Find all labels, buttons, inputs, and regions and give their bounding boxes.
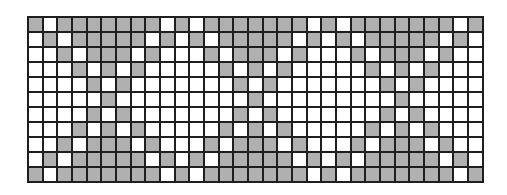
grid-cell-filled — [145, 167, 160, 182]
grid-cell-empty — [160, 47, 175, 62]
grid-cell-filled — [424, 32, 439, 47]
grid-cell-filled — [145, 17, 160, 32]
grid-cell-empty — [28, 47, 43, 62]
grid-cell-empty — [453, 62, 468, 77]
grid-cell-empty — [28, 62, 43, 77]
grid-cell-filled — [424, 122, 439, 137]
grid-cell-filled — [101, 17, 116, 32]
knitting-pattern-grid — [27, 16, 484, 183]
grid-cell-empty — [175, 122, 190, 137]
grid-cell-filled — [189, 32, 204, 47]
grid-cell-filled — [365, 32, 380, 47]
grid-cell-empty — [453, 47, 468, 62]
grid-cell-empty — [72, 77, 87, 92]
grid-cell-empty — [468, 137, 483, 152]
grid-cell-empty — [365, 47, 380, 62]
grid-cell-filled — [57, 17, 72, 32]
grid-cell-empty — [160, 107, 175, 122]
grid-cell-filled — [145, 137, 160, 152]
grid-cell-empty — [395, 107, 410, 122]
grid-cell-filled — [263, 47, 278, 62]
grid-cell-empty — [116, 122, 131, 137]
grid-cell-filled — [248, 62, 263, 77]
grid-cell-empty — [321, 137, 336, 152]
grid-cell-empty — [292, 32, 307, 47]
grid-cell-empty — [145, 92, 160, 107]
grid-cell-filled — [351, 137, 366, 152]
grid-cell-empty — [292, 62, 307, 77]
grid-cell-empty — [189, 47, 204, 62]
grid-cell-filled — [57, 167, 72, 182]
grid-cell-filled — [395, 152, 410, 167]
grid-cell-filled — [263, 137, 278, 152]
grid-cell-empty — [468, 152, 483, 167]
grid-cell-filled — [395, 92, 410, 107]
grid-cell-filled — [87, 107, 102, 122]
grid-cell-empty — [87, 122, 102, 137]
grid-cell-empty — [292, 107, 307, 122]
grid-cell-filled — [395, 62, 410, 77]
grid-cell-filled — [131, 152, 146, 167]
grid-cell-filled — [468, 17, 483, 32]
grid-cell-empty — [439, 152, 454, 167]
grid-cell-filled — [87, 167, 102, 182]
grid-cell-empty — [453, 137, 468, 152]
grid-cell-empty — [263, 62, 278, 77]
grid-cell-empty — [321, 152, 336, 167]
grid-cell-empty — [409, 122, 424, 137]
grid-cell-empty — [43, 62, 58, 77]
grid-cell-filled — [116, 107, 131, 122]
grid-cell-filled — [380, 32, 395, 47]
grid-cell-empty — [145, 152, 160, 167]
grid-cell-empty — [424, 137, 439, 152]
grid-cell-filled — [365, 152, 380, 167]
grid-cell-filled — [439, 47, 454, 62]
grid-cell-filled — [204, 17, 219, 32]
grid-cell-filled — [380, 17, 395, 32]
grid-cell-empty — [380, 122, 395, 137]
grid-cell-empty — [263, 122, 278, 137]
grid-cell-filled — [409, 152, 424, 167]
grid-cell-empty — [336, 137, 351, 152]
grid-cell-filled — [365, 17, 380, 32]
grid-cell-empty — [57, 122, 72, 137]
grid-cell-filled — [263, 107, 278, 122]
grid-cell-empty — [307, 167, 322, 182]
grid-cell-empty — [307, 17, 322, 32]
grid-cell-empty — [351, 62, 366, 77]
grid-cell-filled — [380, 77, 395, 92]
grid-cell-empty — [72, 47, 87, 62]
grid-cell-empty — [439, 92, 454, 107]
grid-cell-empty — [307, 47, 322, 62]
grid-cell-filled — [409, 17, 424, 32]
grid-cell-filled — [292, 137, 307, 152]
grid-cell-filled — [219, 167, 234, 182]
grid-cell-filled — [87, 47, 102, 62]
grid-cell-filled — [72, 122, 87, 137]
grid-cell-empty — [175, 47, 190, 62]
grid-cell-empty — [43, 47, 58, 62]
grid-cell-filled — [263, 77, 278, 92]
grid-cell-empty — [28, 107, 43, 122]
grid-cell-empty — [57, 107, 72, 122]
grid-cell-filled — [395, 47, 410, 62]
grid-cell-empty — [219, 137, 234, 152]
grid-cell-empty — [175, 152, 190, 167]
grid-cell-empty — [365, 77, 380, 92]
grid-cell-filled — [380, 167, 395, 182]
grid-cell-filled — [277, 152, 292, 167]
grid-cell-empty — [351, 92, 366, 107]
grid-cell-empty — [204, 62, 219, 77]
grid-cell-empty — [189, 167, 204, 182]
grid-cell-empty — [189, 62, 204, 77]
grid-cell-filled — [263, 152, 278, 167]
grid-cell-empty — [468, 92, 483, 107]
grid-cell-empty — [204, 77, 219, 92]
grid-cell-empty — [189, 17, 204, 32]
grid-cell-filled — [204, 137, 219, 152]
grid-cell-filled — [101, 152, 116, 167]
grid-cell-empty — [160, 17, 175, 32]
grid-cell-filled — [116, 77, 131, 92]
grid-cell-filled — [116, 32, 131, 47]
grid-cell-filled — [351, 17, 366, 32]
